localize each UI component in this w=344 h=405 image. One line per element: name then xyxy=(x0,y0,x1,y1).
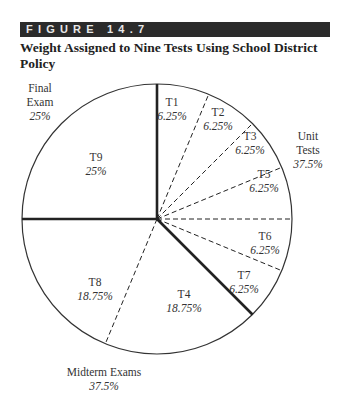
svg-text:Tests: Tests xyxy=(296,144,320,156)
svg-text:T7: T7 xyxy=(238,269,251,281)
group-label-final-exam: FinalExam25% xyxy=(27,82,54,122)
svg-text:T6: T6 xyxy=(259,230,272,242)
svg-text:Unit: Unit xyxy=(298,130,319,142)
svg-text:6.25%: 6.25% xyxy=(250,244,280,256)
svg-text:37.5%: 37.5% xyxy=(292,158,323,170)
svg-text:Exam: Exam xyxy=(27,96,54,108)
svg-text:6.25%: 6.25% xyxy=(157,110,187,122)
svg-text:37.5%: 37.5% xyxy=(88,380,119,392)
pie-chart: T16.25%T26.25%T36.25%T56.25%T66.25%T76.2… xyxy=(0,0,344,405)
svg-text:Midterm Exams: Midterm Exams xyxy=(67,366,142,378)
svg-text:T9: T9 xyxy=(90,151,103,163)
svg-text:Final: Final xyxy=(28,82,52,94)
svg-text:25%: 25% xyxy=(29,110,50,122)
svg-text:T2: T2 xyxy=(212,106,225,118)
svg-text:T3: T3 xyxy=(244,130,257,142)
svg-text:6.25%: 6.25% xyxy=(249,182,279,194)
svg-text:T1: T1 xyxy=(166,96,179,108)
svg-text:6.25%: 6.25% xyxy=(203,120,233,132)
svg-text:18.75%: 18.75% xyxy=(77,290,112,302)
svg-text:6.25%: 6.25% xyxy=(229,283,259,295)
svg-text:6.25%: 6.25% xyxy=(235,144,265,156)
svg-text:T8: T8 xyxy=(89,276,102,288)
svg-text:18.75%: 18.75% xyxy=(166,302,201,314)
svg-text:25%: 25% xyxy=(85,165,106,177)
group-label-unit-tests: UnitTests37.5% xyxy=(292,130,323,170)
svg-text:T4: T4 xyxy=(178,288,191,300)
svg-text:T5: T5 xyxy=(258,168,271,180)
group-label-midterm-exams: Midterm Exams37.5% xyxy=(67,366,142,392)
